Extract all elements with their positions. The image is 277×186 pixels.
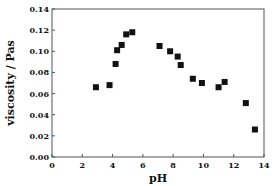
y-tick-label: 0.12 — [30, 25, 49, 35]
x-axis-title: pH — [149, 172, 167, 185]
y-axis-ticks: 0.000.020.040.060.080.100.120.14 — [30, 4, 55, 162]
data-point-square — [123, 31, 129, 37]
scatter-chart: 02468101214 0.000.020.040.060.080.100.12… — [0, 0, 277, 186]
data-point-square — [190, 76, 196, 82]
data-point-square — [178, 62, 184, 68]
data-point-square — [252, 127, 258, 133]
data-point-square — [167, 48, 173, 54]
data-point-square — [199, 80, 205, 86]
y-tick-label: 0.00 — [30, 152, 50, 162]
x-tick-label: 14 — [258, 160, 270, 170]
data-points — [93, 29, 258, 132]
data-point-square — [114, 47, 120, 53]
y-tick-label: 0.04 — [30, 110, 50, 120]
x-tick-label: 8 — [170, 160, 176, 170]
plot-frame — [52, 9, 264, 157]
x-tick-label: 4 — [110, 160, 116, 170]
data-point-square — [222, 79, 228, 85]
y-tick-label: 0.10 — [30, 46, 50, 56]
x-tick-label: 6 — [140, 160, 146, 170]
data-point-square — [216, 84, 222, 90]
x-tick-label: 2 — [79, 160, 85, 170]
x-tick-label: 0 — [49, 160, 55, 170]
data-point-square — [175, 54, 181, 60]
data-point-square — [129, 29, 135, 35]
data-point-square — [107, 82, 113, 88]
y-tick-label: 0.14 — [30, 4, 50, 14]
data-point-square — [113, 61, 119, 67]
x-tick-label: 10 — [198, 160, 210, 170]
x-axis-ticks: 02468101214 — [49, 154, 270, 170]
y-tick-label: 0.06 — [30, 89, 50, 99]
data-point-square — [93, 84, 99, 90]
x-tick-label: 12 — [228, 160, 239, 170]
y-axis-title: viscosity / Pas — [4, 40, 17, 127]
y-tick-label: 0.08 — [30, 67, 50, 77]
data-point-square — [243, 100, 249, 106]
y-tick-label: 0.02 — [30, 131, 49, 141]
data-point-square — [119, 42, 125, 48]
data-point-square — [157, 43, 163, 49]
